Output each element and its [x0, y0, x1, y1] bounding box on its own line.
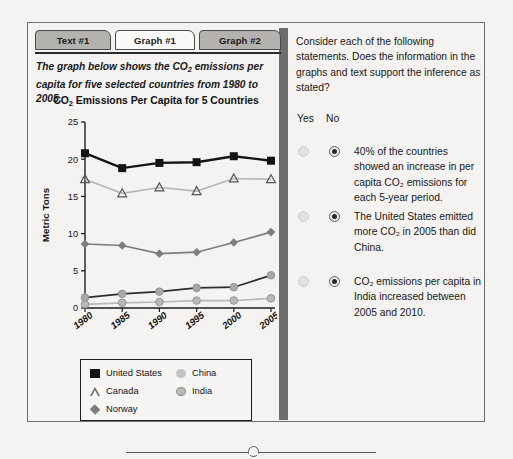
chart-svg: Metric Tons 0510152025 19801985199019952… [33, 112, 277, 352]
chart-line-canada [81, 174, 276, 197]
data-point [156, 298, 164, 306]
data-point [230, 283, 238, 291]
tab-graph-2-label: Graph #2 [219, 35, 261, 46]
legend-label-united-states: United States [106, 368, 162, 378]
radio-yes-2[interactable] [298, 276, 309, 287]
svg-text:10: 10 [68, 229, 78, 239]
page-root: Text #1 Graph #1 Graph #2 The graph belo… [0, 0, 513, 459]
question-prompt: Consider each of the following statement… [296, 34, 481, 95]
right-panel: Consider each of the following statement… [296, 34, 486, 424]
data-point [81, 300, 89, 308]
statement-row: 40% of the countries showed an increase … [296, 144, 486, 205]
chart-title-part-2: Emissions Per Capita for 5 Countries [73, 95, 259, 106]
chart-line-china [81, 271, 275, 301]
tab-text-1-label: Text #1 [57, 35, 90, 46]
tab-graph-2[interactable]: Graph #2 [199, 30, 281, 50]
data-point [81, 240, 90, 249]
tab-underline [35, 52, 281, 54]
data-point [267, 157, 275, 165]
radio-yes-0[interactable] [298, 146, 309, 157]
radio-no-1[interactable] [329, 211, 340, 222]
data-point [193, 297, 201, 305]
chart-line-india [81, 295, 275, 309]
chart-y-ticks: 0510152025 [68, 117, 85, 313]
radio-no-0[interactable] [329, 146, 340, 157]
legend-label-norway: Norway [106, 404, 138, 414]
svg-text:15: 15 [68, 192, 78, 202]
statement-row: The United States emitted more CO₂ in 20… [296, 209, 486, 255]
svg-text:5: 5 [73, 266, 78, 276]
data-point [118, 299, 126, 307]
chart-x-ticks: 198019851990199520002005 [71, 308, 277, 332]
legend-label-china: China [192, 368, 216, 378]
chart-line-united-states [81, 149, 275, 172]
chart-line-norway [81, 228, 276, 258]
tab-graph-1[interactable]: Graph #1 [115, 30, 195, 50]
chart-y-axis-label: Metric Tons [40, 187, 51, 242]
legend-label-canada: Canada [106, 386, 139, 396]
data-point [230, 152, 238, 160]
svg-text:2005: 2005 [256, 309, 277, 332]
data-point [155, 159, 163, 167]
data-point [267, 228, 276, 237]
statement-label-0: 40% of the countries showed an increase … [354, 144, 486, 205]
svg-text:20: 20 [68, 155, 78, 165]
data-point [193, 158, 201, 166]
data-point [155, 249, 164, 258]
marker-circle-icon [176, 369, 186, 378]
legend-item-china: China [176, 368, 216, 378]
data-point [267, 271, 275, 279]
data-point [118, 164, 126, 172]
data-point [230, 238, 239, 247]
data-point [118, 290, 126, 298]
column-header-no: No [326, 113, 339, 124]
marker-triangle-icon [90, 387, 100, 396]
radio-no-2[interactable] [329, 276, 340, 287]
marker-diamond-icon [90, 404, 100, 414]
data-point [156, 288, 164, 296]
legend-label-india: India [192, 386, 212, 396]
svg-text:1985: 1985 [108, 309, 132, 331]
svg-text:2000: 2000 [219, 309, 244, 332]
legend-item-canada: Canada [90, 386, 139, 396]
legend-item-norway: Norway [90, 404, 138, 414]
data-point [192, 248, 201, 257]
svg-text:1995: 1995 [183, 309, 207, 331]
data-point [267, 295, 275, 303]
data-point [230, 297, 238, 305]
chart-series-group [81, 149, 276, 308]
statement-row: CO₂ emissions per capita in India increa… [296, 274, 486, 320]
intro-text-part-2: emissions per [192, 61, 263, 72]
tab-graph-1-label: Graph #1 [134, 35, 176, 46]
chart-title-part-1: CO [53, 95, 69, 106]
marker-ring-circle-icon [176, 387, 186, 396]
tab-text-1[interactable]: Text #1 [35, 30, 111, 50]
tab-bar: Text #1 Graph #1 Graph #2 [35, 30, 281, 52]
svg-text:0: 0 [73, 303, 78, 313]
chart-axes [85, 122, 275, 308]
statement-label-2: CO₂ emissions per capita in India increa… [354, 274, 486, 320]
prompt-line-2: statements. Does the information [296, 51, 447, 62]
column-header-yes: Yes [297, 113, 314, 124]
chart-title: CO2 Emissions Per Capita for 5 Countries [36, 95, 276, 108]
page-bottom-knob-mask [249, 451, 258, 455]
radio-yes-1[interactable] [298, 211, 309, 222]
data-point [193, 284, 201, 292]
chart-legend: United States Canada Norway China India [80, 359, 252, 421]
svg-text:Metric Tons: Metric Tons [40, 187, 51, 242]
line-chart: Metric Tons 0510152025 19801985199019952… [33, 112, 277, 352]
data-point [81, 149, 89, 157]
svg-text:25: 25 [68, 117, 78, 127]
left-panel: Text #1 Graph #1 Graph #2 The graph belo… [27, 22, 279, 422]
legend-item-india: India [176, 386, 212, 396]
intro-text-part-1: The graph below shows the CO [36, 61, 188, 72]
legend-item-united-states: United States [90, 368, 162, 378]
panel-divider [279, 28, 288, 420]
statement-label-1: The United States emitted more CO₂ in 20… [354, 209, 486, 255]
marker-square-icon [90, 369, 100, 378]
prompt-line-1: Consider each of the following [296, 36, 434, 47]
data-point [118, 241, 127, 250]
svg-text:1990: 1990 [145, 309, 169, 331]
